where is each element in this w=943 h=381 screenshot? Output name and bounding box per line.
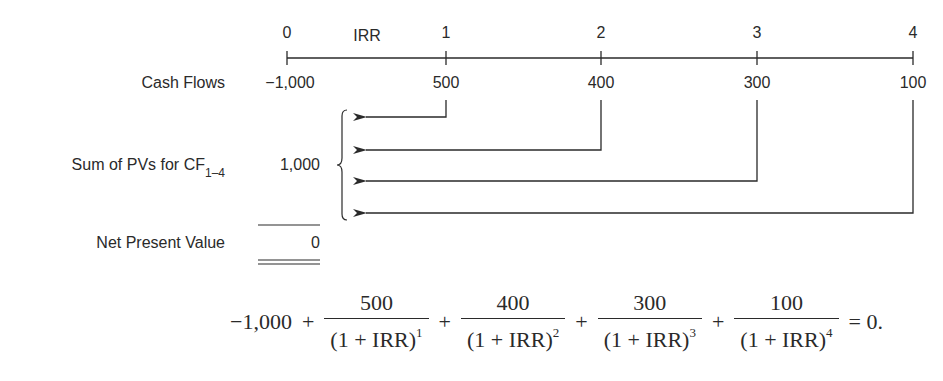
sum-pv-label-main: Sum of PVs for CF	[72, 156, 205, 173]
npv-value: 0	[311, 234, 320, 252]
plus-sign: +	[302, 309, 314, 335]
term-4-exponent: 4	[826, 325, 833, 340]
term-1-denominator: (1 + IRR)1	[324, 318, 428, 354]
cash-flow-1: 500	[433, 74, 460, 92]
term-3-exponent: 3	[689, 325, 696, 340]
plus-sign: +	[439, 309, 451, 335]
term-3-numerator: 300	[627, 290, 672, 318]
term-3-base: (1 + IRR)	[604, 327, 690, 352]
cash-flow-4: 100	[900, 74, 927, 92]
irr-equation: −1,000 + 500 (1 + IRR)1 + 400 (1 + IRR)2…	[230, 290, 885, 354]
equals-zero: = 0.	[849, 309, 883, 335]
plus-sign: +	[712, 309, 724, 335]
period-label-4: 4	[909, 24, 918, 42]
equation-initial: −1,000	[230, 309, 292, 335]
arrow-cf2	[366, 100, 601, 150]
arrow-cf4	[366, 100, 913, 213]
term-1: 500 (1 + IRR)1	[324, 290, 428, 354]
term-2-base: (1 + IRR)	[467, 327, 553, 352]
period-label-0: 0	[283, 24, 292, 42]
cash-flow-2: 400	[588, 74, 615, 92]
period-label-2: 2	[597, 24, 606, 42]
period-label-1: 1	[442, 24, 451, 42]
term-1-exponent: 1	[416, 325, 423, 340]
brace	[337, 110, 347, 220]
sum-pv-label-subscript: 1–4	[205, 166, 225, 180]
period-label-3: 3	[753, 24, 762, 42]
cash-flow-0: −1,000	[265, 74, 314, 92]
term-2-denominator: (1 + IRR)2	[461, 318, 565, 354]
term-1-numerator: 500	[354, 290, 399, 318]
arrow-cf3	[366, 100, 757, 181]
npv-label: Net Present Value	[96, 234, 225, 252]
term-3: 300 (1 + IRR)3	[598, 290, 702, 354]
term-4-base: (1 + IRR)	[740, 327, 826, 352]
irr-label: IRR	[353, 27, 381, 45]
term-2-exponent: 2	[553, 325, 560, 340]
term-4-numerator: 100	[764, 290, 809, 318]
arrow-cf1	[366, 100, 446, 117]
term-2: 400 (1 + IRR)2	[461, 290, 565, 354]
plus-sign: +	[575, 309, 587, 335]
term-4: 100 (1 + IRR)4	[734, 290, 838, 354]
sum-pv-value: 1,000	[280, 156, 320, 174]
term-4-denominator: (1 + IRR)4	[734, 318, 838, 354]
term-2-numerator: 400	[491, 290, 536, 318]
term-3-denominator: (1 + IRR)3	[598, 318, 702, 354]
cash-flows-label: Cash Flows	[141, 74, 225, 92]
term-1-base: (1 + IRR)	[330, 327, 416, 352]
cash-flow-3: 300	[744, 74, 771, 92]
sum-pv-label: Sum of PVs for CF1–4	[72, 156, 225, 177]
